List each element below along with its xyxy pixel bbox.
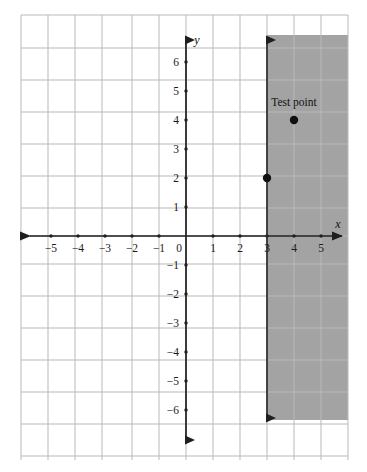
- point-on-boundary: [263, 174, 271, 182]
- graph-canvas: −5 −4 −3 −2 −1 0 1 2 3 4 5 6 5 4 3 2 1 −…: [0, 0, 367, 472]
- x-tick-label-neg5: −5: [45, 242, 57, 254]
- y-tick-label-5: 5: [173, 85, 179, 97]
- origin-label: 0: [176, 242, 182, 254]
- test-point-marker: [290, 116, 298, 124]
- y-tick-label-neg1: −1: [167, 259, 179, 271]
- x-tick-label-1: 1: [210, 242, 216, 254]
- test-point-label: Test point: [271, 96, 317, 109]
- y-tick-label-neg6: −6: [167, 404, 179, 416]
- x-tick-label-neg1: −1: [153, 242, 165, 254]
- x-tick-label-2: 2: [237, 242, 243, 254]
- y-axis-label: y: [193, 33, 200, 47]
- x-tick-label-5: 5: [318, 242, 324, 254]
- x-tick-label-neg3: −3: [99, 242, 111, 254]
- y-tick-label-neg5: −5: [167, 375, 179, 387]
- y-tick-label-neg2: −2: [167, 288, 179, 300]
- x-tick-label-neg2: −2: [126, 242, 138, 254]
- y-tick-label-neg3: −3: [167, 317, 179, 329]
- y-tick-label-6: 6: [173, 56, 179, 68]
- x-tick-label-neg4: −4: [72, 242, 84, 254]
- x-tick-label-3: 3: [264, 242, 270, 254]
- x-tick-label-4: 4: [291, 242, 297, 254]
- coordinate-plane-figure: −5 −4 −3 −2 −1 0 1 2 3 4 5 6 5 4 3 2 1 −…: [0, 0, 367, 472]
- y-tick-label-2: 2: [173, 172, 179, 184]
- y-tick-label-3: 3: [173, 143, 179, 155]
- y-tick-label-neg4: −4: [167, 346, 179, 358]
- x-axis-label: x: [334, 217, 341, 231]
- y-tick-label-4: 4: [173, 114, 179, 126]
- y-tick-label-1: 1: [173, 201, 179, 213]
